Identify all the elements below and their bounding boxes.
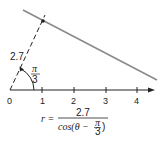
formula-frac-den: 3: [95, 126, 101, 137]
angle-num: π: [32, 63, 38, 74]
formula-lhs: r =: [41, 113, 54, 124]
formula-suffix: ): [102, 121, 105, 132]
polar-line-diagram: 0 1 2 3 4 2.7 π 3 r = 2.7 cos(θ − π 3 ): [0, 0, 161, 147]
polar-axis: [10, 87, 155, 93]
tick-label-2: 2: [71, 96, 76, 106]
foot-point: [41, 19, 45, 23]
angle-den: 3: [32, 74, 38, 85]
segment-length-label: 2.7: [10, 51, 24, 62]
formula: r = 2.7 cos(θ − π 3 ): [41, 107, 108, 137]
formula-numerator: 2.7: [76, 107, 90, 118]
tick-label-0: 0: [7, 96, 12, 106]
tick-label-3: 3: [103, 96, 108, 106]
tick-label-1: 1: [40, 96, 45, 106]
tick-label-4: 4: [134, 96, 139, 106]
formula-denominator-prefix: cos(θ −: [58, 121, 89, 133]
